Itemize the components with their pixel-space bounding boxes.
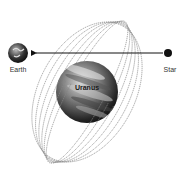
- uranus-label: Uranus: [75, 84, 99, 91]
- star-icon: [164, 49, 172, 57]
- uranus-planet: [56, 61, 118, 123]
- earth-icon: [8, 43, 28, 63]
- diagram-canvas: Uranus Earth Star: [0, 0, 183, 171]
- earth-label: Earth: [10, 66, 27, 73]
- star-label: Star: [164, 66, 178, 73]
- earth-node: [8, 43, 28, 63]
- occultation-diagram: Uranus Earth Star: [0, 0, 183, 171]
